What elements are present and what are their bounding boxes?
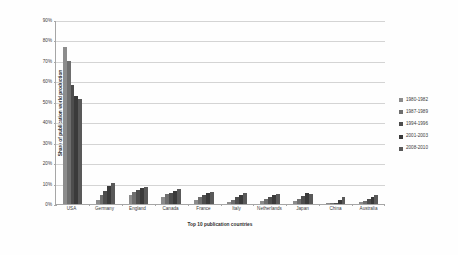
bar [144,187,148,204]
bar [342,197,346,204]
x-axis-tick-mark [122,204,123,206]
bar [111,183,115,204]
x-axis-tick-label: Japan [286,207,319,212]
bar [177,189,181,204]
x-axis-tick-mark [188,204,189,206]
bar-group [122,21,155,204]
x-axis-tick-mark [352,204,353,206]
y-axis-tick-label: 10% [43,182,52,187]
bar-chart: Share of publication world production 90… [0,0,458,255]
legend-label: 2001-2003 [406,134,428,139]
legend-label: 2008-2010 [406,146,428,151]
legend-swatch-icon [399,110,403,114]
y-axis-tick-label: 70% [43,60,52,65]
bar-group [319,21,352,204]
x-axis-tick-label: Italy [220,207,253,212]
x-axis-tick-mark [384,204,385,206]
x-axis-tick-labels: USAGermanyEnglandCanadaFranceItalyNether… [55,207,385,212]
bar-group [188,21,221,204]
x-axis-tick-label: China [319,207,352,212]
x-axis-tick-mark [155,204,156,206]
x-axis-tick-mark [253,204,254,206]
legend-label: 1980-1982 [406,98,428,103]
bar-group [56,21,89,204]
x-axis-tick-label: Canada [154,207,187,212]
legend: 1980-19821987-19891994-19962001-20032008… [399,98,428,151]
bar [210,192,214,204]
y-axis-tick-label: 80% [43,39,52,44]
x-axis-tick-mark [89,204,90,206]
x-axis-tick-label: Netherlands [253,207,286,212]
legend-swatch-icon [399,98,403,102]
legend-swatch-icon [399,147,403,151]
bar-groups [56,21,385,204]
legend-swatch-icon [399,135,403,139]
legend-item: 1987-1989 [399,110,428,115]
bar-group [155,21,188,204]
bar-group [221,21,254,204]
x-axis-tick-mark [56,204,57,206]
bar [243,193,247,204]
legend-item: 2001-2003 [399,134,428,139]
bar [276,194,280,204]
x-axis-title: Top 10 publication countries [55,222,385,227]
bar-group [286,21,319,204]
legend-item: 2008-2010 [399,146,428,151]
legend-label: 1987-1989 [406,110,428,115]
bar-group [352,21,385,204]
bar-group [89,21,122,204]
legend-item: 1994-1996 [399,122,428,127]
y-axis-tick-label: 30% [43,141,52,146]
y-axis-tick-label: 50% [43,100,52,105]
y-axis-tick-label: 0% [45,203,52,208]
legend-item: 1980-1982 [399,98,428,103]
y-axis-tick-label: 90% [43,19,52,24]
x-axis-tick-label: USA [55,207,88,212]
bar [374,195,378,204]
x-axis-tick-mark [286,204,287,206]
y-axis-tick-label: 40% [43,121,52,126]
y-axis-tick-label: 60% [43,80,52,85]
bar [309,194,313,204]
x-axis-tick-label: England [121,207,154,212]
legend-swatch-icon [399,122,403,126]
bar [78,99,82,204]
x-axis-tick-label: Germany [88,207,121,212]
legend-label: 1994-1996 [406,122,428,127]
x-axis-tick-label: France [187,207,220,212]
x-axis-tick-label: Australia [352,207,385,212]
x-axis-tick-mark [319,204,320,206]
x-axis-tick-mark [221,204,222,206]
plot-area: 90%80%70%60%50%40%30%20%10%0% [55,21,385,205]
bar-group [253,21,286,204]
y-axis-tick-label: 20% [43,162,52,167]
